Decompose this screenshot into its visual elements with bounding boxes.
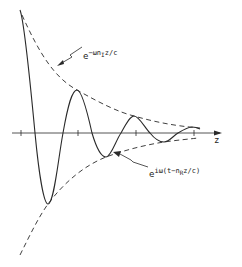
wave-exponent-text: iω(t−n — [154, 167, 179, 175]
envelope-label-exponent: −ωnIz/c — [88, 49, 117, 57]
envelope-exponent-text: −ωn — [88, 49, 101, 57]
z-axis — [12, 130, 220, 136]
damped-wave-diagram — [0, 0, 242, 267]
wave-label-exponent: iω(t−nRz/c) — [154, 167, 200, 175]
wave-leader-arrow-icon — [113, 151, 121, 157]
wave-exponent-tail: z/c) — [183, 167, 200, 175]
envelope-exponent-subscript: I — [101, 51, 105, 58]
envelope-label: e−ωnIz/c — [83, 46, 117, 62]
wave-exponent-subscript: R — [180, 169, 184, 176]
z-axis-label: z — [214, 136, 219, 145]
wave-label-leader — [120, 154, 148, 167]
upper-envelope-curve — [22, 15, 200, 128]
envelope-exponent-tail: z/c — [105, 49, 118, 57]
wave-label: eiω(t−nRz/c) — [149, 164, 200, 180]
envelope-leader-arrow-icon — [57, 60, 64, 66]
